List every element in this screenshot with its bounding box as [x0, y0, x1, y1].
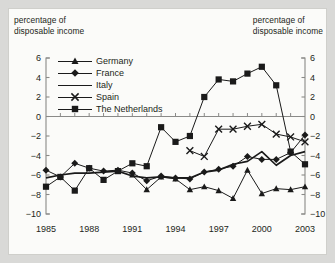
legend-marker-triangle-icon [58, 55, 92, 67]
chart-legend: Germany France Italy Spain [58, 55, 163, 115]
svg-text:0: 0 [36, 112, 41, 122]
svg-text:−10: −10 [26, 209, 41, 219]
legend-marker-diamond-icon [58, 67, 92, 79]
svg-text:−10: −10 [310, 209, 325, 219]
svg-text:4: 4 [36, 73, 41, 83]
svg-text:2: 2 [36, 92, 41, 102]
svg-text:−6: −6 [310, 170, 320, 180]
legend-item: The Netherlands [58, 103, 163, 115]
legend-label: Spain [96, 91, 119, 103]
legend-item: France [58, 67, 163, 79]
svg-text:4: 4 [310, 73, 315, 83]
legend-marker-cross-icon [58, 91, 92, 103]
svg-text:2003: 2003 [295, 224, 315, 234]
svg-text:−4: −4 [31, 151, 41, 161]
legend-item: Germany [58, 55, 163, 67]
legend-item: Spain [58, 91, 163, 103]
legend-label: Italy [96, 79, 113, 91]
svg-text:1994: 1994 [165, 224, 185, 234]
svg-text:0: 0 [310, 112, 315, 122]
svg-text:2: 2 [310, 92, 315, 102]
svg-text:1991: 1991 [122, 224, 142, 234]
svg-text:1988: 1988 [79, 224, 99, 234]
svg-text:2000: 2000 [252, 224, 272, 234]
svg-text:−4: −4 [310, 151, 320, 161]
legend-item: Italy [58, 79, 163, 91]
svg-text:−8: −8 [310, 190, 320, 200]
svg-text:6: 6 [310, 53, 315, 63]
svg-text:−6: −6 [31, 170, 41, 180]
svg-text:6: 6 [36, 53, 41, 63]
legend-label: France [96, 67, 124, 79]
svg-text:−2: −2 [310, 131, 320, 141]
svg-text:1997: 1997 [209, 224, 229, 234]
svg-text:1985: 1985 [36, 224, 56, 234]
legend-label: Germany [96, 55, 133, 67]
chart-figure: percentage of disposable income percenta… [0, 0, 335, 263]
plot-canvas: 66442200−2−2−4−4−6−6−8−8−10−101985198819… [0, 0, 335, 263]
legend-label: The Netherlands [96, 103, 163, 115]
legend-marker-line-icon [58, 79, 92, 91]
svg-text:−2: −2 [31, 131, 41, 141]
legend-marker-square-icon [58, 103, 92, 115]
svg-text:−8: −8 [31, 190, 41, 200]
